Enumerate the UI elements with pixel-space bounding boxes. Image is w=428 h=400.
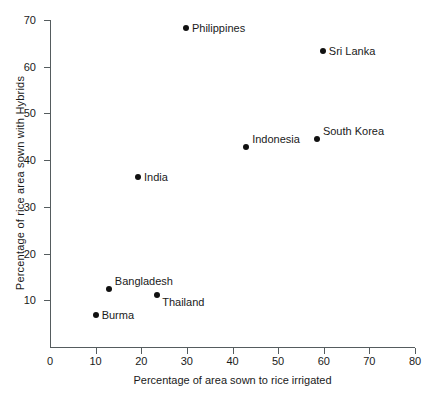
y-tick-50 (44, 113, 50, 114)
data-point-label: Thailand (162, 297, 204, 308)
y-axis-line (50, 20, 51, 348)
x-tick-label-60: 60 (304, 356, 344, 367)
y-axis-title: Percentage of rice area sown with Hybrid… (14, 18, 26, 348)
x-tick-50 (278, 348, 279, 354)
y-tick-10 (44, 300, 50, 301)
data-point-label: Bangladesh (115, 276, 173, 287)
data-point-label: South Korea (323, 126, 384, 137)
data-point-label: Indonesia (252, 134, 300, 145)
x-tick-label-40: 40 (213, 356, 253, 367)
data-point-label: Philippines (192, 23, 245, 34)
data-point[interactable] (243, 144, 249, 150)
data-point[interactable] (106, 286, 112, 292)
x-tick-label-70: 70 (349, 356, 389, 367)
x-tick-60 (324, 348, 325, 354)
x-tick-label-0: 0 (30, 356, 70, 367)
x-tick-80 (415, 348, 416, 354)
x-tick-label-50: 50 (258, 356, 298, 367)
x-tick-70 (369, 348, 370, 354)
x-tick-label-30: 30 (167, 356, 207, 367)
data-point[interactable] (320, 48, 326, 54)
data-point-label: India (144, 172, 168, 183)
x-tick-label-20: 20 (121, 356, 161, 367)
scatter-chart-figure: 10203040506070 01020304050607080 Philipp… (0, 0, 428, 400)
x-tick-label-80: 80 (395, 356, 428, 367)
data-point[interactable] (93, 312, 99, 318)
data-point[interactable] (314, 136, 320, 142)
data-point[interactable] (183, 25, 189, 31)
y-tick-20 (44, 254, 50, 255)
data-point-label: Burma (102, 310, 134, 321)
y-tick-70 (44, 20, 50, 21)
x-tick-40 (233, 348, 234, 354)
x-tick-label-10: 10 (76, 356, 116, 367)
y-tick-60 (44, 67, 50, 68)
x-tick-30 (187, 348, 188, 354)
y-tick-30 (44, 207, 50, 208)
data-point[interactable] (154, 292, 160, 298)
data-point[interactable] (135, 174, 141, 180)
y-tick-40 (44, 160, 50, 161)
data-point-label: Sri Lanka (329, 46, 375, 57)
x-axis-title: Percentage of area sown to rice irrigate… (50, 374, 415, 386)
x-tick-20 (141, 348, 142, 354)
x-tick-10 (96, 348, 97, 354)
